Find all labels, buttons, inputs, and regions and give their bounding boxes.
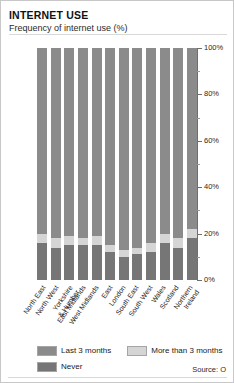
bar-column: [132, 48, 142, 280]
bar-segment-never: [119, 257, 129, 280]
x-axis-label-slot: Wales: [157, 282, 167, 338]
y-axis-tick-label: 60%: [204, 137, 219, 145]
legend-item-more-than-3-months: More than 3 months: [127, 346, 222, 356]
bar-column: [146, 48, 156, 280]
bar-column: [64, 48, 74, 280]
source-note: Source: O: [192, 365, 226, 374]
y-axis-tick: [197, 280, 202, 281]
legend-item-last-3-months: Last 3 months: [37, 346, 111, 356]
bar-segment-never: [173, 248, 183, 280]
bar-column: [187, 48, 197, 280]
chart-header: INTERNET USE Frequency of internet use (…: [9, 9, 227, 34]
legend-row-top: Last 3 months More than 3 months: [37, 344, 227, 357]
y-axis-tick: [197, 48, 202, 49]
bar-column: [105, 48, 115, 280]
bar-segment-older: [78, 238, 88, 245]
bar-segment-never: [37, 243, 47, 280]
bar-segment-recent: [146, 48, 156, 243]
y-axis-minor-tick: [197, 118, 200, 119]
footer-divider: [8, 377, 227, 378]
bar-segment-older: [37, 234, 47, 243]
x-axis-label-slot: West Midlands: [90, 282, 100, 338]
bar-segment-recent: [173, 48, 183, 238]
bar-segment-recent: [78, 48, 88, 238]
y-axis-tick-label: 40%: [204, 183, 219, 191]
legend-label-last-3-months: Last 3 months: [61, 346, 111, 355]
bar-segment-never: [51, 248, 61, 280]
bar-segment-older: [187, 229, 197, 238]
bar-segment-recent: [51, 48, 61, 238]
legend-swatch-icon-more-than-3-months: [127, 346, 147, 356]
bar-segment-older: [146, 243, 156, 252]
bar-column: [51, 48, 61, 280]
bar-column: [37, 48, 47, 280]
legend-label-never: Never: [61, 362, 82, 371]
legend-label-more-than-3-months: More than 3 months: [151, 346, 222, 355]
bar-column: [173, 48, 183, 280]
bar-segment-older: [51, 238, 61, 247]
bar-segment-never: [105, 252, 115, 280]
bar-segment-older: [64, 236, 74, 245]
bar-group: [37, 48, 197, 280]
y-axis-minor-tick: [197, 257, 200, 258]
bar-segment-recent: [37, 48, 47, 234]
y-axis-tick: [197, 141, 202, 142]
y-axis-tick: [197, 187, 202, 188]
bar-segment-never: [160, 243, 170, 280]
y-axis-tick-label: 20%: [204, 230, 219, 238]
bar-column: [160, 48, 170, 280]
bar-segment-never: [132, 254, 142, 280]
bar-segment-never: [92, 245, 102, 280]
x-axis-label-slot: South West: [144, 282, 154, 338]
bar-segment-older: [160, 234, 170, 243]
bar-segment-older: [92, 236, 102, 245]
bar-segment-older: [119, 250, 129, 257]
legend-item-never: Never: [37, 362, 82, 372]
chart-subtitle: Frequency of internet use (%): [9, 22, 227, 34]
y-axis-tick-label: 80%: [204, 90, 219, 98]
bar-segment-never: [146, 252, 156, 280]
y-axis-minor-tick: [197, 164, 200, 165]
bar-segment-never: [78, 245, 88, 280]
y-axis-tick-label: 0%: [204, 276, 215, 284]
bar-segment-recent: [64, 48, 74, 236]
legend-swatch-icon-last-3-months: [37, 346, 57, 356]
page-title: INTERNET USE: [9, 9, 227, 21]
legend-swatch-icon-never: [37, 362, 57, 372]
bar-column: [92, 48, 102, 280]
x-axis-labels: North EastNorth WestYorkshire & HumberEa…: [37, 282, 197, 338]
bar-segment-recent: [105, 48, 115, 245]
bar-segment-recent: [187, 48, 197, 229]
plot-area: [37, 48, 197, 280]
chart-panel: INTERNET USE Frequency of internet use (…: [0, 0, 234, 383]
bar-segment-recent: [92, 48, 102, 236]
bar-column: [119, 48, 129, 280]
y-axis-minor-tick: [197, 210, 200, 211]
x-axis-label-slot: East: [104, 282, 114, 338]
bar-segment-older: [132, 248, 142, 255]
bar-segment-never: [64, 245, 74, 280]
bar-segment-older: [105, 245, 115, 252]
y-axis-tick: [197, 94, 202, 95]
bar-segment-recent: [119, 48, 129, 250]
bar-segment-older: [173, 238, 183, 247]
y-axis-minor-tick: [197, 71, 200, 72]
bar-column: [78, 48, 88, 280]
bar-segment-recent: [132, 48, 142, 248]
bar-segment-recent: [160, 48, 170, 234]
bar-segment-never: [187, 238, 197, 280]
y-axis-tick: [197, 234, 202, 235]
x-axis-label-slot: Northern Ireland: [184, 282, 194, 338]
header-divider: [9, 34, 227, 35]
y-axis-tick-label: 100%: [204, 44, 223, 52]
